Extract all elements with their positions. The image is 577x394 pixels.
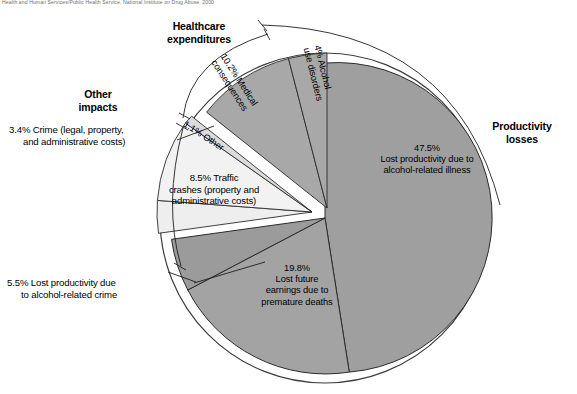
slice-label-47-5-line1: Lost productivity due to bbox=[352, 154, 502, 165]
callout-lpc-line2: to alcohol-related crime bbox=[7, 289, 193, 301]
slice-label-47-5-pct: 47.5% bbox=[352, 143, 502, 154]
slice-lost-productivity-illness bbox=[325, 63, 492, 373]
callout-lpc-line1: 5.5% Lost productivity due bbox=[7, 277, 193, 289]
callout-traffic: 8.5% Traffic crashes (property and admin… bbox=[131, 172, 297, 207]
slice-label-47-5-line2: alcohol-related illness bbox=[352, 165, 502, 176]
slice-label-19-8-line2: earnings due to bbox=[236, 285, 358, 296]
slice-label-19-8-line3: premature deaths bbox=[236, 297, 358, 308]
slice-label-19-8: 19.8% Lost future earnings due to premat… bbox=[236, 263, 358, 308]
slice-label-19-8-line1: Lost future bbox=[236, 274, 358, 285]
group-label-other-impacts: Other impacts bbox=[38, 88, 158, 113]
slice-label-19-8-pct: 19.8% bbox=[236, 263, 358, 274]
group-label-productivity-line1: Productivity bbox=[472, 120, 572, 133]
group-label-healthcare-line1: Healthcare bbox=[141, 20, 257, 33]
callout-traffic-line3: administrative costs) bbox=[131, 195, 297, 207]
callout-crime-line1: 3.4% Crime (legal, property, bbox=[9, 124, 177, 136]
callout-traffic-line1: 8.5% Traffic bbox=[131, 172, 297, 184]
callout-lost-productivity-crime: 5.5% Lost productivity due to alcohol-re… bbox=[7, 277, 193, 300]
group-label-healthcare-line2: expenditures bbox=[141, 33, 257, 46]
group-label-other-impacts-line1: Other bbox=[38, 88, 158, 101]
bracket-tick-healthcare-start bbox=[179, 113, 190, 119]
chart-canvas: Health and Human Services/Public Health … bbox=[0, 0, 577, 394]
slice-label-47-5: 47.5% Lost productivity due to alcohol-r… bbox=[352, 143, 502, 177]
group-label-productivity-losses: Productivity losses bbox=[472, 120, 572, 145]
group-label-other-impacts-line2: impacts bbox=[38, 101, 158, 114]
group-label-healthcare: Healthcare expenditures bbox=[141, 20, 257, 45]
callout-crime-line2: and administrative costs) bbox=[9, 136, 177, 148]
callout-crime: 3.4% Crime (legal, property, and adminis… bbox=[9, 124, 177, 147]
callout-traffic-line2: crashes (property and bbox=[131, 184, 297, 196]
